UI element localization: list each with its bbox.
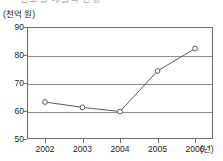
data-point-marker [80,105,85,110]
data-point-marker [118,109,123,114]
data-series-line [27,27,213,139]
x-tick-mark [45,139,46,143]
y-tick-label: 70 [2,79,24,88]
clipped-header-text: 연도별 매출액 현황 [20,0,215,3]
y-tick-label: 90 [2,23,24,32]
x-axis-ticks: 20022003200420052006 [27,139,213,161]
x-axis-unit-label: (년) [200,144,214,154]
y-axis-unit-label: (천억 원) [3,9,35,20]
series-polyline [45,49,195,112]
x-tick-mark [158,139,159,143]
x-tick-mark [120,139,121,143]
y-tick-label: 80 [2,51,24,60]
y-tick-label: 60 [2,107,24,116]
data-point-marker [43,100,48,105]
x-tick-label: 2003 [73,144,92,154]
x-tick-label: 2004 [111,144,130,154]
x-tick-mark [83,139,84,143]
y-tick-label: 50 [2,135,24,144]
x-tick-label: 2005 [148,144,167,154]
x-tick-label: 2002 [36,144,55,154]
x-tick-mark [195,139,196,143]
data-point-marker [155,69,160,74]
data-point-marker [193,46,198,51]
line-chart-figure: 연도별 매출액 현황 (천억 원) 5060708090 20022003200… [0,0,223,161]
y-axis-ticks: 5060708090 [0,27,24,139]
